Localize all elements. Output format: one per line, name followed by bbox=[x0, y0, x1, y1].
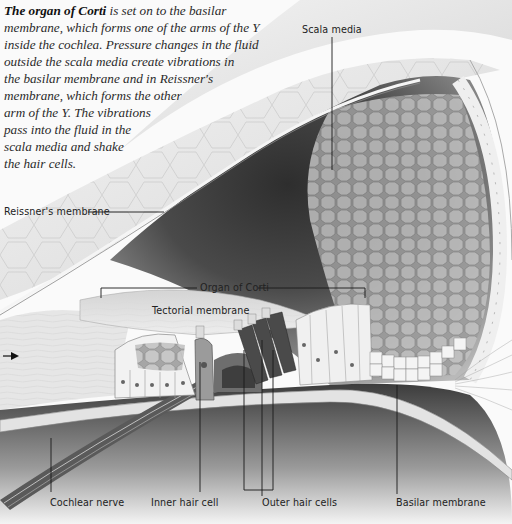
caption-paragraph: The organ of Corti is set on to the basi… bbox=[4, 2, 274, 172]
label-scala-media: Scala media bbox=[302, 24, 362, 35]
caption-line: inside the cochlea. Pressure changes in … bbox=[4, 36, 274, 53]
label-basilar-membrane: Basilar membrane bbox=[396, 497, 486, 508]
caption-line: membrane, which forms the other bbox=[4, 87, 274, 104]
caption-line: outside the scala media create vibration… bbox=[4, 53, 274, 70]
label-inner-hair-cell: Inner hair cell bbox=[151, 497, 219, 508]
caption-line: membrane, which forms one of the arms of… bbox=[4, 19, 274, 36]
label-cochlear-nerve: Cochlear nerve bbox=[50, 497, 124, 508]
caption-line: is set on to the basilar bbox=[106, 3, 226, 18]
caption-lead: The organ of Corti bbox=[4, 3, 106, 18]
label-organ-of-corti: Organ of Corti bbox=[200, 282, 269, 293]
label-reissners-membrane: Reissner's membrane bbox=[4, 206, 110, 217]
organ-of-corti-illustration: The organ of Corti is set on to the basi… bbox=[0, 0, 512, 524]
caption-line: arm of the Y. The vibrations bbox=[4, 104, 274, 121]
caption-line: pass into the fluid in the bbox=[4, 121, 274, 138]
label-tectorial-membrane: Tectorial membrane bbox=[152, 305, 250, 316]
caption-line: the hair cells. bbox=[4, 155, 274, 172]
caption-line: scala media and shake bbox=[4, 138, 274, 155]
label-outer-hair-cells: Outer hair cells bbox=[262, 497, 337, 508]
caption-line: the basilar membrane and in Reissner's bbox=[4, 70, 274, 87]
